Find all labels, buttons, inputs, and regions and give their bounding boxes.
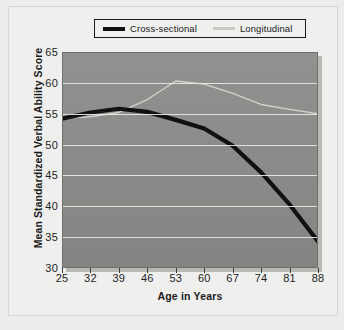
x-tick-label-39: 39 bbox=[104, 272, 134, 284]
gridline-y-40 bbox=[62, 206, 318, 207]
x-axis-tick-labels: 25323946536067748188 bbox=[62, 272, 318, 288]
plot-area bbox=[62, 52, 318, 268]
gridline-y-60 bbox=[62, 83, 318, 84]
y-axis-title: Mean Standardized Verbal Ability Score bbox=[32, 38, 44, 258]
legend-line-swatch-longitudinal bbox=[213, 27, 235, 30]
x-tick-label-81: 81 bbox=[275, 272, 305, 284]
x-axis-title: Age in Years bbox=[62, 290, 318, 302]
legend-line-swatch-cross-sectional bbox=[103, 27, 125, 31]
x-tick-label-53: 53 bbox=[161, 272, 191, 284]
gridline-y-50 bbox=[62, 145, 318, 146]
gridline-y-45 bbox=[62, 175, 318, 176]
x-tick-label-32: 32 bbox=[75, 272, 105, 284]
legend-label-cross-sectional: Cross-sectional bbox=[130, 23, 197, 34]
x-tick-label-74: 74 bbox=[246, 272, 276, 284]
x-tick-label-88: 88 bbox=[303, 272, 333, 284]
gridline-y-55 bbox=[62, 114, 318, 115]
figure-container: Cross-sectional Longitudinal 30354045505… bbox=[0, 0, 344, 330]
x-tick-label-67: 67 bbox=[218, 272, 248, 284]
x-tick-label-25: 25 bbox=[47, 272, 77, 284]
x-tick-label-46: 46 bbox=[132, 272, 162, 284]
x-tick-label-60: 60 bbox=[189, 272, 219, 284]
legend-entry-longitudinal: Longitudinal bbox=[213, 23, 292, 34]
chart-legend: Cross-sectional Longitudinal bbox=[94, 19, 306, 38]
gridline-y-35 bbox=[62, 237, 318, 238]
data-series-svg bbox=[62, 52, 318, 268]
legend-entry-cross-sectional: Cross-sectional bbox=[103, 23, 197, 34]
legend-label-longitudinal: Longitudinal bbox=[240, 23, 292, 34]
